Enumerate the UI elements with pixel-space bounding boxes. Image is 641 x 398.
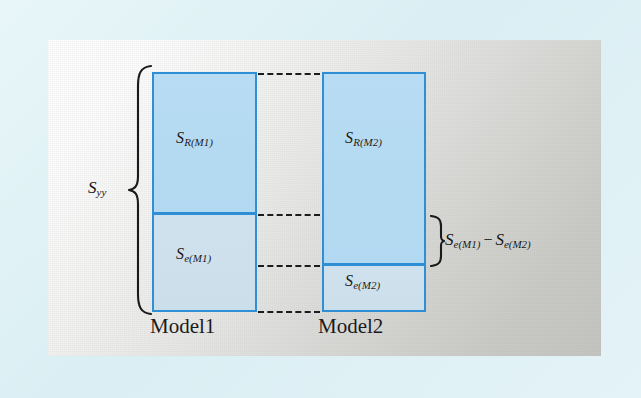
subscript-r-m2: R(M2) (353, 136, 382, 148)
subscript-e-m2: e(M2) (353, 279, 380, 291)
label-s-yy: Syy (88, 178, 106, 198)
dashed-connector-model2-split (258, 265, 320, 267)
brace-error-difference (429, 215, 445, 267)
symbol-s: S (345, 272, 353, 289)
figure-canvas: SR(M1) Se(M1) SR(M2) Se(M2) Syy Se(M1)−S… (0, 0, 641, 398)
symbol-s-left: S (445, 230, 454, 249)
symbol-s: S (176, 245, 184, 262)
symbol-s: S (176, 129, 184, 146)
subscript-e-m2: e(M2) (504, 238, 531, 250)
symbol-s: S (345, 129, 353, 146)
symbol-s: S (88, 178, 97, 197)
minus-operator: − (480, 231, 495, 248)
dashed-connector-top (258, 73, 320, 75)
caption-model2: Model2 (318, 314, 383, 339)
brace-total-sum-of-squares (127, 64, 153, 316)
label-s-e-model2: Se(M2) (345, 272, 380, 291)
subscript-e-m1: e(M1) (454, 238, 481, 250)
subscript-r-m1: R(M1) (184, 136, 213, 148)
label-error-difference: Se(M1)−Se(M2) (445, 230, 531, 250)
label-s-r-model2: SR(M2) (345, 129, 382, 148)
bar-model2-regression (322, 72, 426, 265)
label-s-r-model1: SR(M1) (176, 129, 213, 148)
subscript-yy: yy (97, 186, 107, 198)
dashed-connector-model1-split (258, 214, 320, 216)
dashed-connector-baseline (258, 311, 320, 313)
caption-model1: Model1 (150, 314, 215, 339)
symbol-s-right: S (495, 230, 504, 249)
label-s-e-model1: Se(M1) (176, 245, 211, 264)
subscript-e-m1: e(M1) (184, 252, 211, 264)
